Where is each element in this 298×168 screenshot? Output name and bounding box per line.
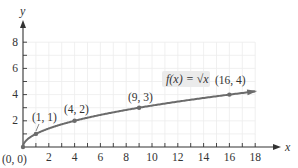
point-label-16-4: (16, 4) — [215, 74, 246, 87]
x-tick-label: 4 — [72, 151, 78, 163]
function-label: f(x) = √x — [166, 72, 209, 86]
x-tick-label: 18 — [249, 151, 261, 163]
point-leader-line — [36, 124, 39, 131]
y-tick-labels: 2 4 6 8 — [12, 36, 18, 127]
y-tick-label: 8 — [12, 36, 18, 48]
origin-label: (0, 0) — [2, 153, 27, 166]
x-axis-arrow-icon — [273, 144, 281, 150]
data-point — [227, 92, 231, 96]
y-tick-label: 4 — [12, 88, 18, 100]
x-tick-labels: 2 4 6 8 10 12 14 16 18 — [46, 151, 261, 163]
data-point — [21, 145, 25, 149]
point-label-4-2: (4, 2) — [64, 103, 89, 116]
y-axis: y — [19, 4, 27, 147]
x-tick-label: 2 — [46, 151, 52, 163]
x-tick-label: 10 — [146, 151, 158, 163]
point-label-9-3: (9, 3) — [128, 91, 153, 104]
x-tick-label: 8 — [123, 151, 129, 163]
x-tick-label: 12 — [172, 151, 184, 163]
sqrt-function-chart: x y 2 4 6 8 10 12 14 16 18 2 4 6 8 (0, 0… — [0, 0, 298, 168]
point-label-1-1: (1, 1) — [32, 111, 57, 124]
y-tick-label: 2 — [12, 114, 18, 126]
data-point — [137, 106, 141, 110]
y-tick-label: 6 — [12, 62, 18, 74]
y-axis-arrow-icon — [20, 20, 26, 28]
x-tick-label: 16 — [224, 151, 236, 163]
data-point — [72, 119, 76, 123]
data-point — [34, 132, 38, 136]
x-tick-label: 6 — [98, 151, 104, 163]
y-axis-title: y — [19, 4, 26, 18]
x-tick-label: 14 — [198, 151, 210, 163]
x-axis-title: x — [284, 140, 291, 154]
